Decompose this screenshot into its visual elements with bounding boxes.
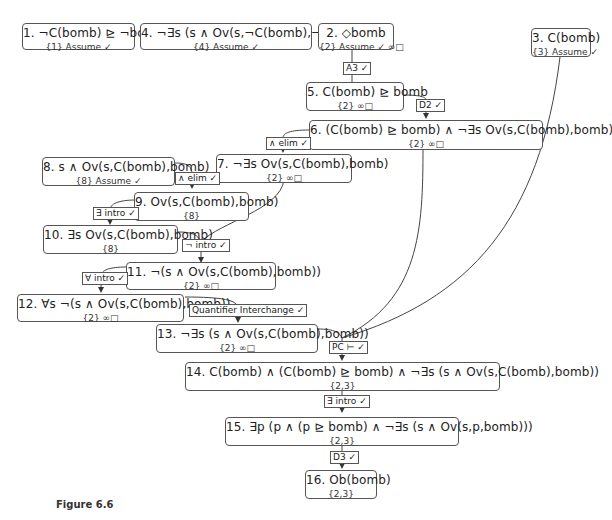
proof-node-13: 13. ¬∃s (s ∧ Ov(s,C(bomb),bomb)) {2} ∞□ [156,324,318,353]
rule-label-d3: D3 ✓ [330,451,359,464]
rule-label-forall-intro: ∀ intro ✓ [82,272,128,285]
node-formula: 2. ◇bomb [319,24,393,41]
node-formula: 16. Ob(bomb) [306,471,376,488]
node-dependencies: {2,3} [226,435,458,447]
rule-label-exists-intro-2: ∃ intro ✓ [324,395,370,408]
node-formula: 13. ¬∃s (s ∧ Ov(s,C(bomb),bomb)) [157,325,317,342]
node-formula: 15. ∃p (p ∧ (p ⊵ bomb) ∧ ¬∃s (s ∧ Ov(s,p… [226,418,458,435]
node-formula: 11. ¬(s ∧ Ov(s,C(bomb),bomb)) [127,263,275,280]
node-formula: 6. (C(bomb) ⊵ bomb) ∧ ¬∃s Ov(s,C(bomb),b… [310,121,542,138]
proof-node-3: 3. C(bomb) {3} Assume ✓ [531,28,591,57]
node-formula: 8. s ∧ Ov(s,C(bomb),bomb) [43,158,174,175]
proof-node-9: 9. Ov(s,C(bomb),bomb) {8} [134,192,249,221]
node-dependencies: {1} Assume ✓ [23,41,134,53]
node-formula: 4. ¬∃s (s ∧ Ov(s,¬C(bomb),¬bomb)) [141,24,311,41]
rule-label-and-elim-2: ∧ elim ✓ [175,172,220,185]
node-dependencies: {2} ∞□ [310,138,542,150]
node-dependencies: {2,3} [306,488,376,500]
proof-node-16: 16. Ob(bomb) {2,3} [305,470,377,499]
proof-node-7: 7. ¬∃s Ov(s,C(bomb),bomb) {2} ∞□ [216,154,352,183]
node-formula: 14. C(bomb) ∧ (C(bomb) ⊵ bomb) ∧ ¬∃s (s … [186,363,499,380]
proof-diagram: 1. ¬C(bomb) ⊵ ¬bomb {1} Assume ✓ 4. ¬∃s … [0,0,612,520]
node-dependencies: {3} Assume ✓ [532,46,590,58]
node-dependencies: {2} ∞□ [127,280,275,292]
node-formula: 9. Ov(s,C(bomb),bomb) [135,193,248,210]
rule-label-neg-intro: ¬ intro ✓ [182,239,230,252]
node-formula: 3. C(bomb) [532,29,590,46]
proof-node-1: 1. ¬C(bomb) ⊵ ¬bomb {1} Assume ✓ [22,23,135,50]
proof-node-4: 4. ¬∃s (s ∧ Ov(s,¬C(bomb),¬bomb)) {4} As… [140,23,312,50]
node-formula: 12. ∀s ¬(s ∧ Ov(s,C(bomb),bomb)) [18,295,183,312]
node-dependencies: {8} [135,210,248,222]
rule-label-a3: A3 ✓ [343,62,371,75]
rule-label-d2: D2 ✓ [416,99,445,112]
proof-node-5: 5. C(bomb) ⊵ bomb {2} ∞□ [306,82,404,111]
node-dependencies: {8} [44,243,177,255]
proof-node-12: 12. ∀s ¬(s ∧ Ov(s,C(bomb),bomb)) {2} ∞□ [17,294,184,322]
proof-node-11: 11. ¬(s ∧ Ov(s,C(bomb),bomb)) {2} ∞□ [126,262,276,290]
rule-label-and-elim-1: ∧ elim ✓ [266,137,311,150]
node-dependencies: {2,3} [186,380,499,392]
node-formula: 1. ¬C(bomb) ⊵ ¬bomb [23,24,134,41]
node-dependencies: {2} ∞□ [217,172,351,184]
rule-label-quantifier-interchange: Quantifier Interchange ✓ [189,304,307,317]
proof-node-15: 15. ∃p (p ∧ (p ⊵ bomb) ∧ ¬∃s (s ∧ Ov(s,p… [225,417,459,446]
node-dependencies: {2} ∞□ [157,342,317,354]
node-formula: 10. ∃s Ov(s,C(bomb),bomb) [44,226,177,243]
proof-node-6: 6. (C(bomb) ⊵ bomb) ∧ ¬∃s Ov(s,C(bomb),b… [309,120,543,150]
proof-node-10: 10. ∃s Ov(s,C(bomb),bomb) {8} [43,225,178,254]
node-dependencies: {2} ∞□ [307,100,403,112]
proof-node-8: 8. s ∧ Ov(s,C(bomb),bomb) {8} Assume ✓ [42,157,175,186]
node-formula: 7. ¬∃s Ov(s,C(bomb),bomb) [217,155,351,172]
node-dependencies: {2} ∞□ [18,312,183,324]
node-dependencies: {4} Assume ✓ [141,41,311,53]
rule-label-exists-intro-1: ∃ intro ✓ [93,207,139,220]
proof-node-2: 2. ◇bomb {2} Assume ✓ ∞□ [318,23,394,50]
node-formula: 5. C(bomb) ⊵ bomb [307,83,403,100]
node-dependencies: {2} Assume ✓ ∞□ [319,41,393,53]
figure-caption: Figure 6.6 [56,499,113,510]
rule-label-pc: PC ⊢ ✓ [329,341,368,354]
node-dependencies: {8} Assume ✓ [43,175,174,187]
proof-node-14: 14. C(bomb) ∧ (C(bomb) ⊵ bomb) ∧ ¬∃s (s … [185,362,500,391]
